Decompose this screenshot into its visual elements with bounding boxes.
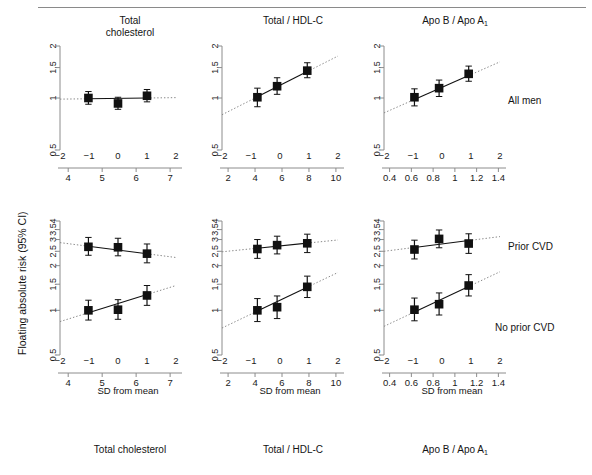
plot-area-bot-total-cholesterol: 0.511.522.533.54−2−10124567: [38, 215, 188, 395]
data-point-marker: [84, 94, 93, 103]
fit-line-extrapolation: [222, 248, 257, 252]
x-primary-tick-label: 2: [173, 150, 178, 161]
data-point-marker: [303, 239, 312, 248]
y-tick-label: 1.5: [210, 61, 220, 74]
data-point-marker: [464, 281, 473, 290]
fit-line: [257, 72, 307, 97]
y-tick-label: 1.5: [372, 278, 382, 291]
fit-line-extrapolation: [469, 237, 500, 241]
sd-from-mean-label-left: SD from mean: [58, 385, 198, 396]
x-secondary-tick-label: 1.2: [470, 172, 483, 183]
x-primary-tick-label: −2: [55, 150, 66, 161]
panel-top-total-cholesterol: 0.511.52−2−10124567: [38, 40, 188, 190]
x-primary-tick-label: 2: [497, 355, 502, 366]
data-point-marker: [114, 305, 123, 314]
x-secondary-tick-label: 7: [167, 172, 172, 183]
x-primary-tick-label: 2: [335, 150, 340, 161]
panel-bottom-total-hdl: 0.511.522.533.54−2−1012246810: [200, 215, 350, 395]
data-point-marker: [435, 300, 444, 309]
data-point-marker: [464, 239, 473, 248]
row-label-all-men: All men: [508, 95, 541, 107]
fit-line-extrapolation: [222, 311, 257, 328]
x-primary-tick-label: 1: [468, 150, 473, 161]
data-point-marker: [253, 93, 262, 102]
fit-line-extrapolation: [147, 254, 176, 258]
data-point-marker: [410, 245, 419, 254]
y-tick-label: 2.5: [48, 245, 58, 258]
bottom-label-total-hdl: Total / HDL-C: [218, 444, 368, 456]
panel-bottom-apo: 0.511.522.533.54−2−10120.40.60.811.21.4: [362, 215, 512, 395]
x-secondary-tick-label: 1.4: [492, 172, 505, 183]
fit-line-extrapolation: [384, 99, 414, 112]
data-point-marker: [303, 283, 312, 292]
data-point-marker: [435, 235, 444, 244]
data-point-marker: [253, 306, 262, 315]
top-divider-rule: [38, 7, 586, 8]
fit-line-extrapolation: [469, 62, 500, 76]
y-tick-label: 1: [48, 95, 58, 100]
plot-area-bot-total-hdl: 0.511.522.533.54−2−1012246810: [200, 215, 350, 395]
y-tick-label: 2.5: [210, 245, 220, 258]
x-primary-tick-label: −1: [246, 355, 257, 366]
x-secondary-tick-label: 4: [252, 172, 257, 183]
y-tick-label: 3.5: [48, 223, 58, 236]
y-tick-label: 1: [372, 95, 382, 100]
data-point-marker: [410, 305, 419, 314]
bottom-label-apo: Apo B / Apo A1: [380, 444, 530, 457]
y-tick-label: 4: [48, 218, 58, 223]
fit-line-extrapolation: [307, 272, 338, 287]
x-primary-tick-label: 0: [115, 150, 120, 161]
data-point-marker: [114, 243, 123, 252]
y-tick-label: 1.5: [48, 61, 58, 74]
data-point-marker: [143, 291, 152, 300]
x-primary-tick-label: −2: [55, 355, 66, 366]
data-point-marker: [273, 241, 282, 250]
plot-area-top-total-cholesterol: 0.511.52−2−10124567: [38, 40, 188, 190]
plot-area-top-apo: 0.511.52−2−10120.40.60.811.21.4: [362, 40, 512, 190]
x-secondary-tick-label: 4: [66, 172, 71, 183]
fit-line-extrapolation: [384, 312, 414, 326]
sd-from-mean-label-mid: SD from mean: [220, 385, 360, 396]
x-primary-tick-label: 0: [277, 355, 282, 366]
row-label-prior-cvd: Prior CVD: [508, 241, 553, 253]
column-title-total-hdl: Total / HDL-C: [218, 15, 368, 27]
y-axis-label: Floating absolute risk (95% CI): [16, 211, 28, 355]
y-tick-label: 1: [372, 308, 382, 313]
x-secondary-tick-label: 2: [225, 172, 230, 183]
y-tick-label: 2: [48, 263, 58, 268]
y-tick-label: 2.5: [372, 245, 382, 258]
y-tick-label: 1: [48, 308, 58, 313]
fit-line-extrapolation: [469, 272, 500, 287]
x-primary-tick-label: −2: [217, 355, 228, 366]
column-title-line1: Apo B / Apo A: [422, 15, 484, 26]
column-title-line2: cholesterol: [60, 27, 200, 39]
x-primary-tick-label: 1: [144, 150, 149, 161]
x-secondary-tick-label: 6: [133, 172, 138, 183]
data-point-marker: [410, 93, 419, 102]
y-tick-label: 4: [210, 218, 220, 223]
x-primary-tick-label: 2: [335, 355, 340, 366]
data-point-marker: [143, 249, 152, 258]
data-point-marker: [84, 306, 93, 315]
data-point-marker: [464, 70, 473, 79]
x-primary-tick-label: −1: [84, 355, 95, 366]
x-primary-tick-label: 1: [144, 355, 149, 366]
x-primary-tick-label: −1: [84, 150, 95, 161]
x-secondary-tick-label: 10: [331, 172, 342, 183]
column-title-line1: Total / HDL-C: [218, 15, 368, 27]
x-secondary-tick-label: 0.8: [427, 172, 440, 183]
y-tick-label: 3: [372, 237, 382, 242]
y-tick-label: 3: [210, 237, 220, 242]
fit-line-extrapolation: [307, 56, 338, 72]
panel-top-apo: 0.511.52−2−10120.40.60.811.21.4: [362, 40, 512, 190]
y-tick-label: 1.5: [372, 61, 382, 74]
y-tick-label: 1.5: [48, 278, 58, 291]
fit-line: [257, 243, 307, 248]
column-title-line1: Total: [60, 15, 200, 27]
data-point-marker: [143, 91, 152, 100]
y-tick-label: 2: [210, 263, 220, 268]
data-point-marker: [114, 99, 123, 108]
bottom-label-apo-subscript: 1: [484, 449, 488, 456]
column-title-subscript: 1: [484, 20, 488, 27]
y-tick-label: 2: [372, 43, 382, 48]
